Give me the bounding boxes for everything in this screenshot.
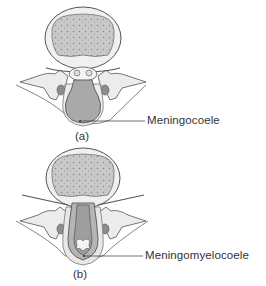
meningocoele-illustration <box>0 0 266 143</box>
label-meningocoele: Meningocoele <box>147 114 220 126</box>
figure-meningomyelocoele: Meningomyelocoele (b) <box>0 143 266 286</box>
meningomyelocoele-illustration <box>0 143 266 286</box>
caption-a: (a) <box>75 130 89 142</box>
label-meningomyelocoele: Meningomyelocoele <box>145 249 249 261</box>
figure-meningocoele: Meningocoele (a) <box>0 0 266 143</box>
caption-b: (b) <box>73 268 87 280</box>
